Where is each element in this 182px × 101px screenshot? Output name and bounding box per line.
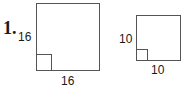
bottom-label: 16 [61, 74, 74, 88]
problem-number: 1. [3, 18, 17, 39]
side-label: 16 [18, 30, 31, 44]
right-angle-marker-icon [36, 54, 52, 71]
side-label: 10 [119, 32, 132, 46]
bottom-label: 10 [151, 63, 164, 77]
right-angle-marker-icon [136, 49, 148, 61]
